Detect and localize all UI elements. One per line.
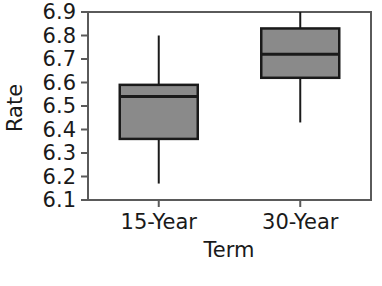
y-tick-label: 6.5 [43, 94, 76, 118]
box-iqr [120, 85, 198, 139]
y-tick-label: 6.7 [43, 47, 76, 71]
boxplot-chart: 6.16.26.36.46.56.66.76.86.9 15-Year30-Ye… [0, 0, 382, 286]
y-axis-title: Rate [3, 84, 27, 132]
category-label: 30-Year [262, 210, 339, 234]
y-tick-label: 6.2 [43, 165, 76, 189]
y-tick-label: 6.1 [43, 188, 76, 212]
y-tick-label: 6.6 [43, 71, 76, 95]
category-label: 15-Year [121, 210, 198, 234]
y-tick-label: 6.9 [43, 0, 76, 24]
boxplot-figure: 6.16.26.36.46.56.66.76.86.9 15-Year30-Ye… [0, 0, 382, 286]
x-axis-title: Term [203, 238, 255, 262]
y-tick-label: 6.8 [43, 24, 76, 48]
y-tick-label: 6.4 [43, 118, 76, 142]
y-tick-label: 6.3 [43, 141, 76, 165]
